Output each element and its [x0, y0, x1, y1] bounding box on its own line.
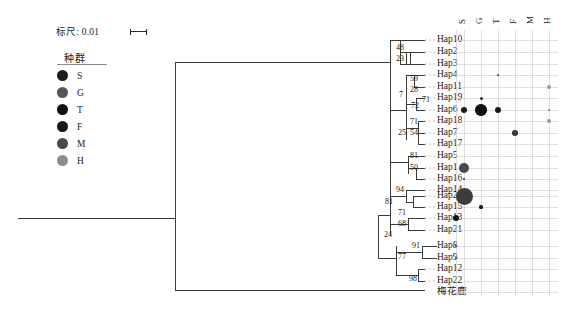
matrix-dot: [512, 130, 518, 136]
matrix-dot: [547, 119, 551, 123]
matrix-dot: [456, 188, 473, 205]
matrix-column-header-g: G: [474, 18, 484, 25]
matrix-dot: [461, 107, 467, 113]
matrix-column-header-t: T: [491, 19, 501, 25]
phylogenetic-tree-figure: 标尺: 0.01 种群 SGTFMH: [0, 0, 562, 310]
matrix-grid: [0, 0, 562, 310]
matrix-dot: [479, 205, 482, 208]
matrix-column-header-m: M: [525, 16, 535, 24]
matrix-column-header-f: F: [508, 19, 518, 24]
matrix-column-header-s: S: [457, 19, 467, 24]
matrix-dot: [480, 97, 483, 100]
matrix-dot: [453, 215, 459, 221]
matrix-dot: [475, 104, 487, 116]
matrix-column-header-h: H: [542, 18, 552, 25]
matrix-dot: [495, 107, 501, 113]
